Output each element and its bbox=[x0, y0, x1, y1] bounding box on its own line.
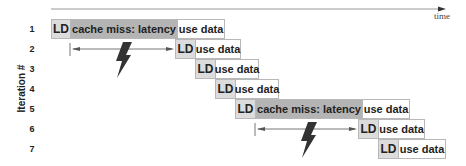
ld-block-1: LD bbox=[51, 19, 71, 39]
x-axis-label: time bbox=[434, 11, 450, 21]
use-data-block-7: use data bbox=[398, 139, 446, 159]
row-label-3: 3 bbox=[26, 64, 38, 74]
use-data-block-2: use data bbox=[195, 39, 241, 59]
use-data-block-3: use data bbox=[215, 59, 259, 79]
y-axis-label: Iteration # bbox=[16, 54, 27, 124]
row-label-2: 2 bbox=[26, 44, 38, 54]
latency-block-1: cache miss: latency bbox=[70, 19, 178, 39]
ld-block-4: LD bbox=[215, 79, 236, 99]
row-label-6: 6 bbox=[26, 124, 38, 134]
row-label-5: 5 bbox=[26, 104, 38, 114]
use-data-block-6: use data bbox=[378, 119, 425, 139]
latency-block-5: cache miss: latency bbox=[255, 99, 363, 119]
row-label-7: 7 bbox=[26, 144, 38, 154]
use-data-block-1: use data bbox=[177, 19, 225, 39]
ld-block-5: LD bbox=[235, 99, 256, 119]
row-label-4: 4 bbox=[26, 84, 38, 94]
ld-block-3: LD bbox=[195, 59, 216, 79]
use-data-block-5: use data bbox=[362, 99, 410, 119]
ld-block-2: LD bbox=[175, 39, 196, 59]
ld-block-7: LD bbox=[378, 139, 399, 159]
ld-block-6: LD bbox=[358, 119, 379, 139]
row-label-1: 1 bbox=[26, 24, 38, 34]
use-data-block-4: use data bbox=[235, 79, 279, 99]
